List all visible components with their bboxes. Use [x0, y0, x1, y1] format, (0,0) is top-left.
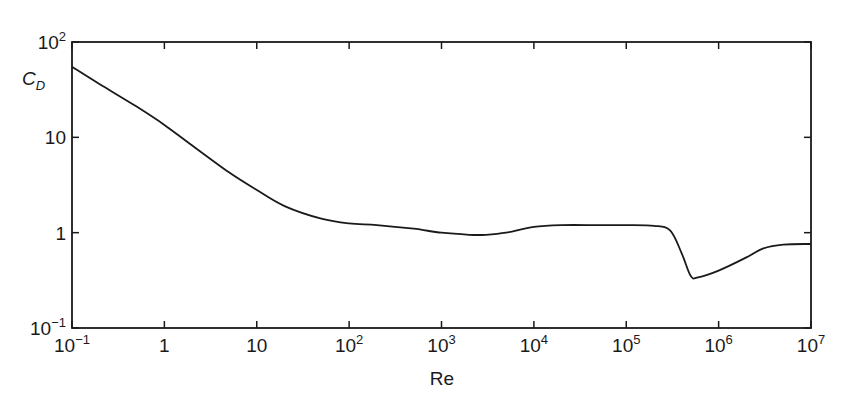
- x-axis-title: Re: [430, 368, 454, 389]
- y-tick-label: 102: [38, 29, 66, 53]
- x-tick-label: 10: [246, 335, 267, 356]
- plot-frame: [72, 42, 811, 328]
- drag-coefficient-chart: 10−1110102103104105106107 10−1110102 Re …: [0, 0, 846, 404]
- x-tick-label: 102: [335, 332, 363, 356]
- y-axis-ticks: 10−1110102: [30, 29, 811, 339]
- x-tick-label: 107: [797, 332, 825, 356]
- x-tick-label: 1: [159, 335, 170, 356]
- data-series-line: [72, 67, 811, 279]
- x-tick-label: 103: [427, 332, 455, 356]
- x-axis-ticks: 10−1110102103104105106107: [54, 42, 825, 356]
- plot-border: [72, 42, 811, 328]
- y-axis-title: CD: [22, 68, 45, 93]
- x-tick-label: 106: [704, 332, 732, 356]
- x-tick-label: 104: [520, 332, 548, 356]
- y-tick-label: 1: [55, 223, 66, 244]
- y-tick-label: 10: [45, 127, 66, 148]
- x-tick-label: 105: [612, 332, 640, 356]
- x-tick-label: 10−1: [54, 332, 90, 356]
